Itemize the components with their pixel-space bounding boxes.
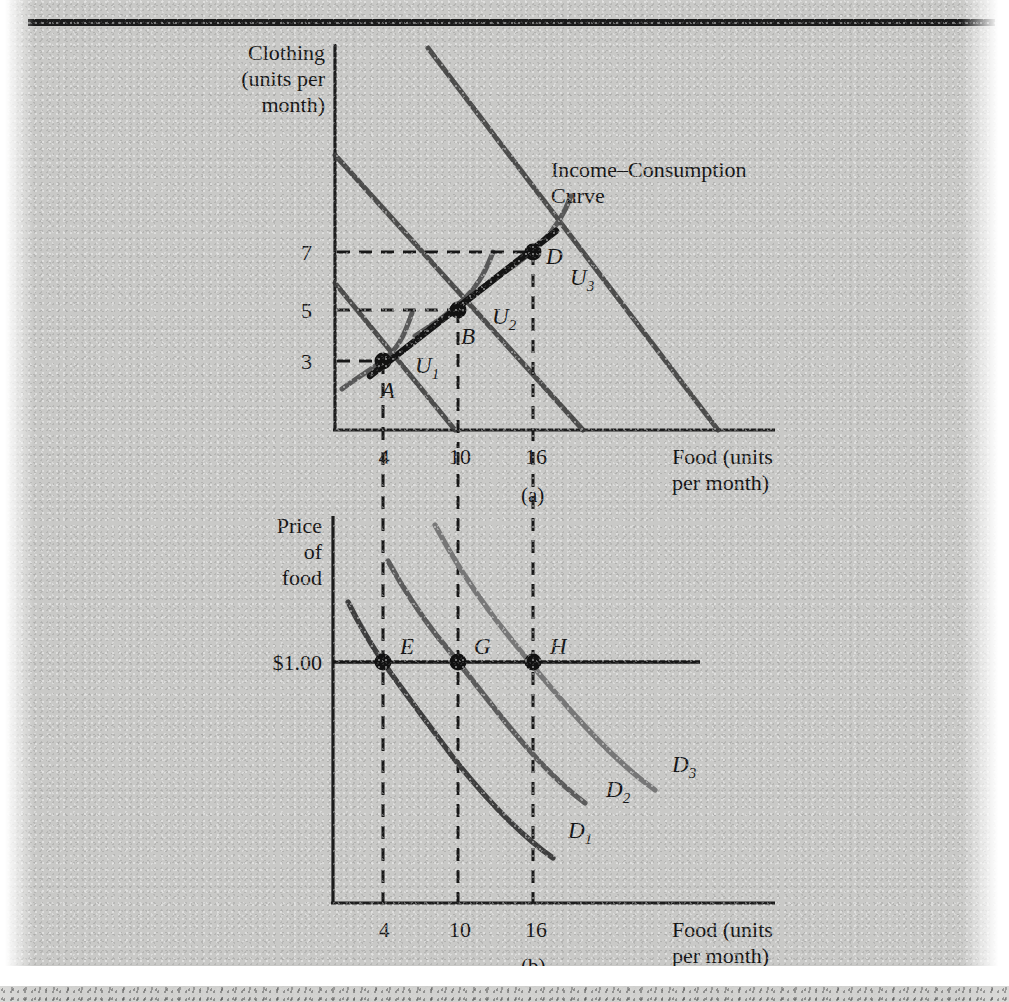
panel-b-demand-curves — [348, 525, 655, 858]
panel-a-label: (a) — [521, 483, 544, 508]
panel-a-y-axis-title: Clothing (units per month) — [170, 40, 325, 118]
panel-b-y-axis-title: Price of food — [190, 513, 322, 591]
point-E-label: E — [400, 633, 414, 660]
point-G-label: G — [474, 633, 491, 660]
panel-a-axes — [333, 44, 775, 430]
panel-a-x-tick-4: 4 — [369, 444, 399, 470]
panel-a-y-tick-3: 3 — [262, 349, 312, 375]
curve-U2-letter: U — [492, 304, 509, 329]
point-H-dot — [525, 654, 542, 671]
panel-b-x-axis-title: Food (units per month) — [672, 917, 872, 969]
panel-a-guides — [337, 252, 533, 448]
point-A-dot — [375, 353, 392, 370]
figure-vector-layer — [0, 0, 1009, 1002]
curve-U3-sub: 3 — [587, 278, 595, 294]
income-consumption-annotation: Income–Consumption Curve — [551, 157, 881, 209]
point-H-label: H — [550, 633, 567, 660]
curve-U3-label: U3 — [570, 264, 594, 295]
point-A-label: A — [381, 377, 395, 404]
curve-D1-letter: D — [568, 818, 585, 843]
panel-b-y-tick-price: $1.00 — [222, 650, 322, 676]
curve-D1-sub: 1 — [585, 831, 593, 847]
panel-a-x-tick-16: 16 — [518, 444, 554, 470]
curve-D2-sub: 2 — [623, 790, 631, 806]
curve-D3-sub: 3 — [689, 765, 697, 781]
curve-D2-label: D2 — [606, 776, 630, 807]
point-G-dot — [450, 654, 467, 671]
point-D-dot — [525, 244, 542, 261]
curve-U1-sub: 1 — [432, 366, 440, 382]
curve-U2-label: U2 — [492, 303, 516, 334]
curve-D2-letter: D — [606, 777, 623, 802]
panel-a-x-axis-title: Food (units per month) — [672, 444, 872, 496]
bottom-speckled-band — [0, 986, 1009, 1002]
figure-container: Clothing (units per month) 7 5 3 4 10 16… — [0, 0, 1009, 1002]
panel-a-y-tick-5: 5 — [262, 298, 312, 324]
panel-a-budget-lines — [335, 48, 718, 430]
curve-D1-label: D1 — [568, 817, 592, 848]
point-D-label: D — [546, 243, 563, 270]
point-E-dot — [375, 654, 392, 671]
panel-b-x-tick-16: 16 — [518, 917, 554, 943]
panel-b-x-tick-4: 4 — [369, 917, 399, 943]
bottom-white-gap — [0, 966, 1009, 986]
inter-panel-connectors — [383, 452, 533, 903]
panel-b-x-tick-10: 10 — [442, 917, 478, 943]
curve-U2-sub: 2 — [509, 317, 517, 333]
panel-a-x-tick-10: 10 — [442, 444, 478, 470]
point-B-label: B — [461, 323, 475, 350]
point-B-dot — [450, 302, 467, 319]
curve-D3-letter: D — [672, 752, 689, 777]
panel-a-y-tick-7: 7 — [262, 240, 312, 266]
curve-D3-label: D3 — [672, 751, 696, 782]
curve-U3-letter: U — [570, 265, 587, 290]
curve-U1-label: U1 — [415, 352, 439, 383]
curve-U1-letter: U — [415, 353, 432, 378]
